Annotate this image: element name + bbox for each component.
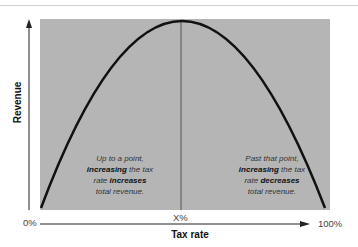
x-axis-arrow-icon — [300, 221, 310, 227]
y-axis-label: Revenue — [12, 78, 23, 128]
x-tick-mid: X% — [173, 212, 188, 223]
x-axis-label: Tax rate — [150, 229, 230, 240]
x-tick-100: 100% — [318, 218, 342, 229]
x-tick-0: 0% — [23, 217, 37, 228]
annotation-right: Past that point, increasing the tax rate… — [222, 153, 322, 197]
laffer-chart — [0, 0, 358, 247]
annotation-left: Up to a point, increasing the tax rate i… — [70, 153, 170, 197]
y-axis-arrow-icon — [26, 19, 32, 28]
